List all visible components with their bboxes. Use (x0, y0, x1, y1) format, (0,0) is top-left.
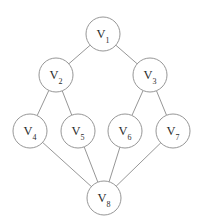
graph-diagram: V1V2V3V4V5V6V7V8 (0, 0, 203, 223)
graph-node-circle-v4 (13, 114, 47, 148)
graph-node-v4[interactable]: V4 (13, 114, 47, 148)
graph-node-v2[interactable]: V2 (39, 58, 73, 92)
graph-node-v6[interactable]: V6 (108, 114, 142, 148)
graph-node-v7[interactable]: V7 (156, 114, 190, 148)
graph-node-circle-v1 (86, 17, 120, 51)
graph-node-circle-v5 (61, 114, 95, 148)
nodes-layer: V1V2V3V4V5V6V7V8 (13, 17, 190, 215)
graph-edge-v1-v2 (69, 45, 90, 64)
graph-node-circle-v8 (87, 181, 121, 215)
graph-edge-v4-v8 (43, 142, 92, 186)
graph-edge-v1-v3 (116, 45, 137, 64)
graph-edge-v3-v6 (132, 91, 143, 116)
graph-node-v8[interactable]: V8 (87, 181, 121, 215)
graph-node-v5[interactable]: V5 (61, 114, 95, 148)
graph-node-circle-v6 (108, 114, 142, 148)
graph-node-circle-v2 (39, 58, 73, 92)
graph-edge-v7-v8 (116, 143, 161, 186)
graph-edge-v2-v4 (37, 90, 49, 115)
graph-node-v3[interactable]: V3 (133, 58, 167, 92)
graph-edge-v3-v7 (156, 91, 166, 116)
graph-node-circle-v3 (133, 58, 167, 92)
graph-edge-v5-v8 (84, 147, 98, 182)
graph-edge-v6-v8 (109, 147, 120, 182)
graph-edge-v2-v5 (62, 91, 72, 115)
graph-canvas: V1V2V3V4V5V6V7V8 (0, 0, 203, 223)
graph-node-circle-v7 (156, 114, 190, 148)
graph-node-v1[interactable]: V1 (86, 17, 120, 51)
